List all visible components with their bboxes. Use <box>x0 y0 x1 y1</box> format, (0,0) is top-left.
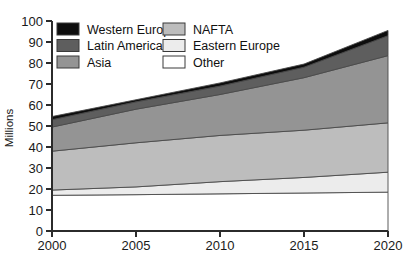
x-tick-label-2000: 2000 <box>38 238 67 253</box>
legend-swatch-latin-america <box>57 40 79 52</box>
x-tick-marks <box>52 231 388 237</box>
y-tick-marks <box>46 21 52 231</box>
y-tick-label-70: 70 <box>29 77 43 92</box>
y-tick-label-60: 60 <box>29 98 43 113</box>
legend-swatch-western-europe <box>57 23 79 35</box>
chart-legend: Western EuropeLatin AmericaAsiaNAFTAEast… <box>57 23 280 70</box>
y-axis-title: Millions <box>3 109 15 148</box>
x-tick-label-2010: 2010 <box>206 238 235 253</box>
chart-canvas: 0102030405060708090100 20002005201020152… <box>0 0 419 267</box>
x-tick-label-2015: 2015 <box>290 238 319 253</box>
stacked-area-chart: 0102030405060708090100 20002005201020152… <box>0 0 419 267</box>
legend-label-other: Other <box>193 56 224 70</box>
legend-label-nafta: NAFTA <box>193 23 234 37</box>
legend-label-latin-america: Latin America <box>87 39 163 53</box>
legend-label-asia: Asia <box>87 56 111 70</box>
y-tick-label-90: 90 <box>29 35 43 50</box>
y-tick-label-10: 10 <box>29 203 43 218</box>
y-tick-label-0: 0 <box>36 224 43 239</box>
legend-swatch-nafta <box>163 23 185 35</box>
legend-swatch-asia <box>57 56 79 68</box>
y-tick-label-40: 40 <box>29 140 43 155</box>
y-tick-label-80: 80 <box>29 56 43 71</box>
y-tick-labels: 0102030405060708090100 <box>21 14 43 239</box>
x-tick-label-2020: 2020 <box>374 238 403 253</box>
legend-swatch-other <box>163 56 185 68</box>
y-tick-label-50: 50 <box>29 119 43 134</box>
x-tick-labels: 20002005201020152020 <box>38 238 403 253</box>
legend-label-eastern-europe: Eastern Europe <box>193 39 280 53</box>
legend-swatch-eastern-europe <box>163 40 185 52</box>
area-band-other <box>52 192 388 231</box>
y-tick-label-20: 20 <box>29 182 43 197</box>
x-tick-label-2005: 2005 <box>122 238 151 253</box>
y-tick-label-100: 100 <box>21 14 43 29</box>
y-tick-label-30: 30 <box>29 161 43 176</box>
